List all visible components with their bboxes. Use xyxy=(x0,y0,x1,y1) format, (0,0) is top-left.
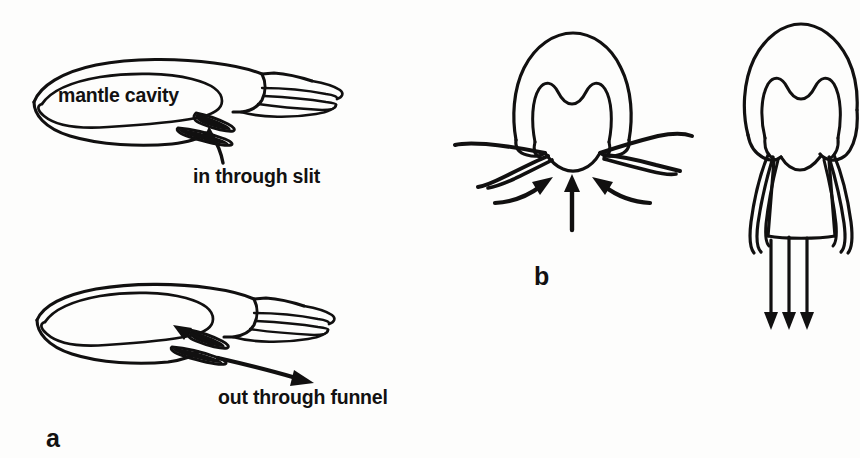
label-out-through-funnel: out through funnel xyxy=(218,386,388,409)
figure-line-art xyxy=(0,0,860,458)
panel-b-left-squid xyxy=(455,33,692,230)
label-mantle-cavity: mantle cavity xyxy=(58,84,179,107)
label-in-through-slit: in through slit xyxy=(193,165,320,188)
panel-label-b: b xyxy=(534,262,549,291)
panel-label-a: a xyxy=(46,424,60,453)
squid-jet-propulsion-figure: mantle cavity in through slit out throug… xyxy=(0,0,860,458)
panel-b-right-squid xyxy=(744,24,857,330)
panel-a-top-squid xyxy=(34,59,342,163)
panel-a-bottom-squid xyxy=(37,284,334,386)
